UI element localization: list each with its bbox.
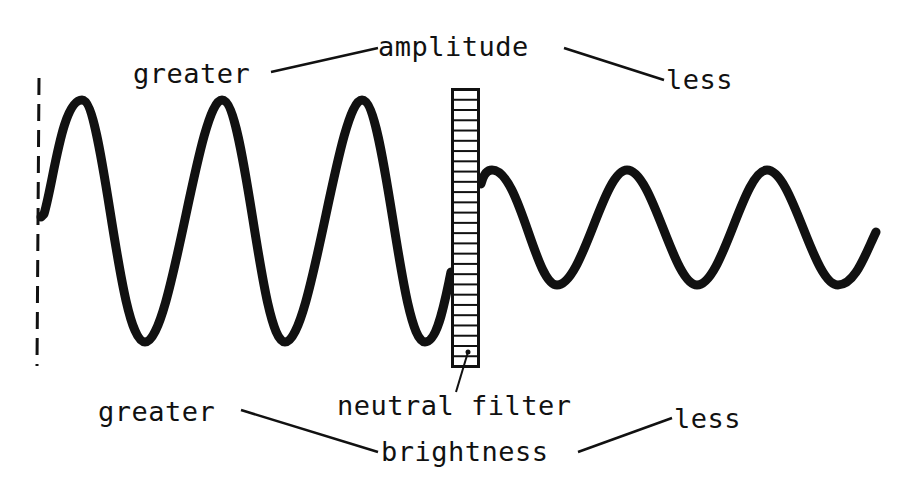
amplitude-less-connector <box>564 48 664 80</box>
brightness-less-connector <box>578 418 672 452</box>
label-brightness: brightness <box>381 438 549 465</box>
wave-less-amplitude <box>481 170 876 285</box>
label-amplitude-less: less <box>666 66 733 93</box>
label-amplitude-greater: greater <box>133 60 250 87</box>
amplitude-greater-connector <box>271 48 378 72</box>
label-amplitude: amplitude <box>378 33 529 60</box>
wave-greater-amplitude <box>41 100 451 342</box>
neutral-filter <box>453 90 479 367</box>
label-brightness-less: less <box>674 405 741 432</box>
dashed-origin-line <box>37 78 39 366</box>
label-neutral-filter: neutral filter <box>337 392 572 419</box>
label-brightness-greater: greater <box>98 398 215 425</box>
